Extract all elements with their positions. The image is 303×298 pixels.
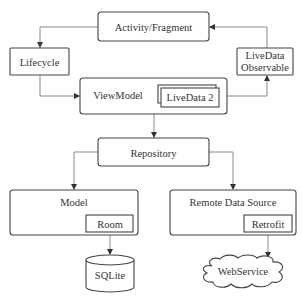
webservice-label: WebService	[218, 266, 269, 277]
edge-lifecycle-viewmodel	[40, 75, 79, 96]
livedata-observable-node: LiveData Observable	[237, 48, 293, 75]
edge-activity-lifecycle	[40, 27, 98, 47]
livedata2-label: LiveData 2	[167, 92, 214, 103]
viewmodel-label: ViewModel	[93, 90, 143, 101]
remote-data-source-label: Remote Data Source	[190, 197, 277, 208]
activity-fragment-node: Activity/Fragment	[98, 12, 209, 41]
room-label: Room	[97, 219, 123, 230]
edge-repository-model	[74, 152, 98, 189]
edge-repository-remote	[209, 152, 233, 189]
edge-viewmodel-livedata-observable	[227, 76, 267, 96]
lifecycle-label: Lifecycle	[20, 57, 60, 68]
livedata2-stack: LiveData 2	[158, 85, 219, 107]
repository-label: Repository	[130, 148, 177, 159]
webservice-cloud-icon: WebService	[203, 255, 282, 288]
livedata-observable-label-line2: Observable	[241, 62, 289, 73]
edge-livedata-observable-activity	[210, 27, 267, 48]
sqlite-label: SQLite	[95, 270, 126, 281]
livedata-observable-label-line1: LiveData	[245, 50, 284, 61]
model-node: Model Room	[10, 190, 138, 235]
repository-node: Repository	[98, 138, 209, 166]
remote-data-source-node: Remote Data Source Retrofit	[170, 190, 296, 235]
retrofit-label: Retrofit	[252, 219, 285, 230]
sqlite-database-icon: SQLite	[86, 255, 134, 292]
model-label: Model	[60, 197, 87, 208]
lifecycle-node: Lifecycle	[10, 48, 69, 75]
activity-fragment-label: Activity/Fragment	[115, 22, 193, 33]
viewmodel-node: ViewModel LiveData 2	[80, 78, 227, 114]
architecture-diagram: Activity/Fragment Lifecycle LiveData Obs…	[0, 0, 303, 298]
